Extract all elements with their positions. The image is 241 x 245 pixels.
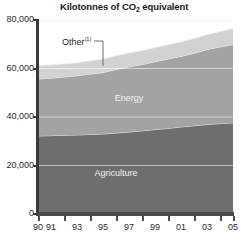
- x-tick-label: 91: [46, 222, 56, 232]
- y-tick-label: 0: [0, 208, 34, 218]
- y-tick-mark: [33, 68, 38, 70]
- x-tick-label: 93: [72, 222, 82, 232]
- stacked-area-svg: [38, 20, 233, 214]
- x-tick-mark: [38, 216, 40, 221]
- series-label-agriculture: Agriculture: [94, 168, 137, 178]
- chart-title: Kilotonnes of CO2 equivalent: [60, 1, 188, 13]
- x-axis-line: [36, 212, 234, 216]
- x-tick-mark: [116, 216, 118, 221]
- x-tick-mark: [194, 216, 196, 221]
- other-callout-text: Other: [62, 37, 85, 47]
- y-tick-mark: [33, 165, 38, 167]
- x-tick-label: 90: [33, 222, 43, 232]
- y-tick-label: 40,000: [0, 111, 34, 121]
- x-tick-label: 97: [124, 222, 134, 232]
- x-tick-mark: [142, 216, 144, 221]
- x-tick-label: 05: [228, 222, 238, 232]
- y-tick-mark: [33, 19, 38, 21]
- y-tick-mark: [33, 116, 38, 118]
- x-tick-mark: [220, 216, 222, 221]
- y-tick-label-wrap: 60,000: [0, 63, 34, 73]
- y-tick-label: 20,000: [0, 160, 34, 170]
- other-callout-superscript: (1): [85, 36, 92, 42]
- x-tick-mark: [168, 216, 170, 221]
- y-tick-label: 80,000: [0, 14, 34, 24]
- y-tick-label-wrap: 80,000: [0, 14, 34, 24]
- other-callout-label: Other(1): [62, 36, 91, 47]
- x-tick-mark: [64, 216, 66, 221]
- x-tick-label: 95: [98, 222, 108, 232]
- chart-title-main: Kilotonnes of CO: [60, 1, 136, 12]
- chart-title-tail: equivalent: [140, 1, 189, 12]
- x-tick-label: 03: [202, 222, 212, 232]
- y-tick-mark: [33, 213, 38, 215]
- x-tick-mark: [233, 216, 235, 221]
- y-tick-label: 60,000: [0, 63, 34, 73]
- plot-area: [38, 20, 233, 214]
- x-tick-label: 99: [150, 222, 160, 232]
- series-label-energy: Energy: [115, 93, 144, 103]
- chart-container: Kilotonnes of CO2 equivalent 020,00040,0…: [0, 0, 241, 245]
- y-tick-label-wrap: 40,000: [0, 111, 34, 121]
- y-tick-label-wrap: 20,000: [0, 160, 34, 170]
- y-tick-label-wrap: 0: [0, 208, 34, 218]
- x-tick-label: 01: [176, 222, 186, 232]
- x-tick-mark: [90, 216, 92, 221]
